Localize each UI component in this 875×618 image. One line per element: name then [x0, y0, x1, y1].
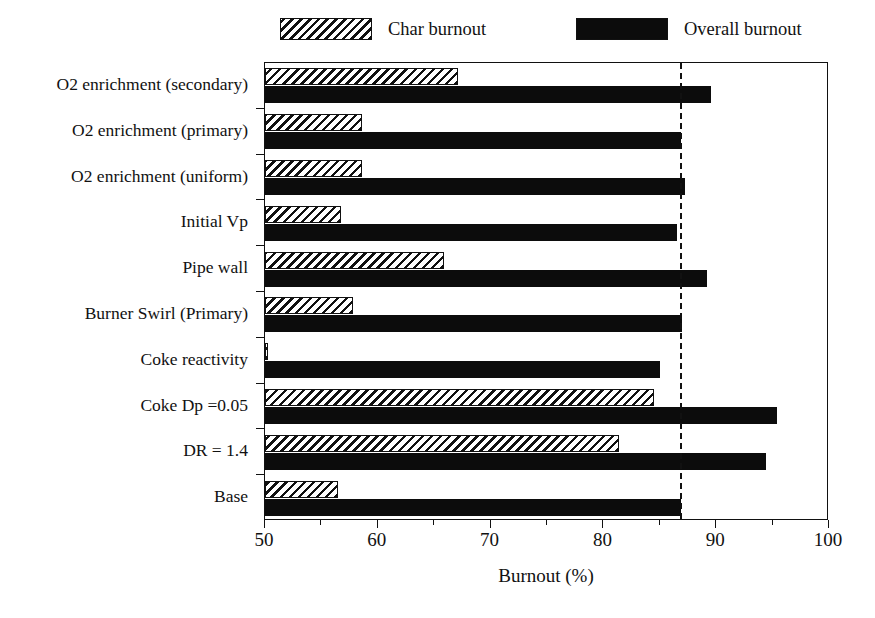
- y-axis-category-labels: O2 enrichment (secondary)O2 enrichment (…: [0, 62, 258, 520]
- x-axis-minor-tick: [546, 520, 547, 525]
- x-axis-tick-label-70: 70: [480, 530, 499, 549]
- x-axis-tick-60: [377, 520, 378, 528]
- plot-area: [264, 62, 828, 520]
- overall-burnout-bar: [265, 407, 777, 424]
- y-axis-label-6: Coke reactivity: [0, 351, 258, 369]
- y-axis-label-0: O2 enrichment (secondary): [0, 76, 258, 94]
- x-axis-tick-100: [828, 520, 829, 528]
- char-burnout-bar: [265, 206, 341, 223]
- x-axis-tick-label-100: 100: [814, 530, 843, 549]
- x-axis-ticks: [264, 520, 828, 530]
- overall-burnout-bar: [265, 270, 707, 287]
- y-axis-label-4: Pipe wall: [0, 259, 258, 277]
- char-burnout-bar: [265, 114, 362, 131]
- x-axis-minor-tick: [433, 520, 434, 525]
- char-burnout-bar: [265, 252, 444, 269]
- chart-legend: Char burnout Overall burnout: [264, 18, 828, 52]
- y-axis-label-3: Initial Vp: [0, 213, 258, 231]
- char-burnout-bar: [265, 160, 362, 177]
- overall-burnout-bar: [265, 224, 677, 241]
- solid-swatch-icon: [576, 18, 668, 40]
- reference-line: [680, 63, 682, 519]
- x-axis-tick-70: [490, 520, 491, 528]
- x-axis-minor-tick: [320, 520, 321, 525]
- bar-row: [265, 384, 827, 430]
- legend-label-char-burnout: Char burnout: [388, 20, 486, 39]
- char-burnout-bar: [265, 343, 268, 360]
- bar-row: [265, 246, 827, 292]
- char-burnout-bar: [265, 435, 619, 452]
- bar-row: [265, 63, 827, 109]
- y-axis-label-2: O2 enrichment (uniform): [0, 168, 258, 186]
- overall-burnout-bar: [265, 499, 681, 516]
- char-burnout-bar: [265, 481, 338, 498]
- bar-group: [265, 63, 827, 519]
- bar-row: [265, 292, 827, 338]
- hatched-swatch-icon: [280, 18, 372, 40]
- x-axis-tick-label-90: 90: [706, 530, 725, 549]
- y-axis-label-8: DR = 1.4: [0, 442, 258, 460]
- overall-burnout-bar: [265, 86, 711, 103]
- x-axis-tick-label-60: 60: [367, 530, 386, 549]
- x-axis-minor-tick: [772, 520, 773, 525]
- y-axis-label-9: Base: [0, 488, 258, 506]
- bar-chart-figure: Char burnout Overall burnout O2 enrichme…: [0, 0, 875, 618]
- bar-row: [265, 475, 827, 521]
- x-axis-tick-label-80: 80: [593, 530, 612, 549]
- overall-burnout-bar: [265, 178, 685, 195]
- bar-row: [265, 155, 827, 201]
- x-axis-tick-90: [715, 520, 716, 528]
- y-axis-label-1: O2 enrichment (primary): [0, 122, 258, 140]
- x-axis-minor-tick: [659, 520, 660, 525]
- x-axis-tick-label-50: 50: [255, 530, 274, 549]
- bar-row: [265, 109, 827, 155]
- overall-burnout-bar: [265, 132, 681, 149]
- legend-label-overall-burnout: Overall burnout: [684, 20, 802, 39]
- x-axis-tick-50: [264, 520, 265, 528]
- y-axis-label-5: Burner Swirl (Primary): [0, 305, 258, 323]
- x-axis-title: Burnout (%): [264, 566, 828, 585]
- char-burnout-bar: [265, 68, 458, 85]
- x-axis-tick-labels: 5060708090100: [164, 530, 875, 556]
- legend-item-char-burnout: Char burnout: [280, 18, 486, 40]
- overall-burnout-bar: [265, 453, 766, 470]
- bar-row: [265, 200, 827, 246]
- bar-row: [265, 429, 827, 475]
- y-axis-label-7: Coke Dp =0.05: [0, 397, 258, 415]
- x-axis-tick-80: [602, 520, 603, 528]
- char-burnout-bar: [265, 389, 654, 406]
- bar-row: [265, 338, 827, 384]
- overall-burnout-bar: [265, 361, 660, 378]
- legend-item-overall-burnout: Overall burnout: [576, 18, 802, 40]
- char-burnout-bar: [265, 297, 353, 314]
- overall-burnout-bar: [265, 315, 682, 332]
